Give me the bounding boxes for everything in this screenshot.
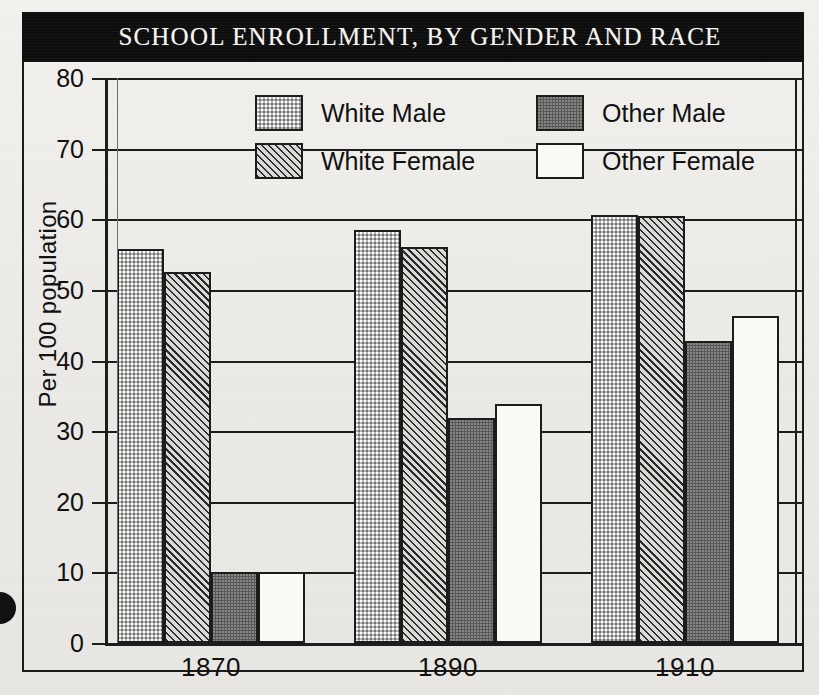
legend-label: White Female: [321, 147, 475, 176]
bar: [117, 249, 164, 643]
legend-label: Other Female: [602, 147, 755, 176]
y-axis-tick-label: 10: [10, 558, 84, 587]
legend-swatch-icon: [536, 95, 584, 131]
legend-label: White Male: [321, 99, 446, 128]
legend-item: White Female: [255, 143, 475, 179]
y-axis-tick: [92, 78, 105, 80]
y-axis-tick: [92, 643, 105, 645]
y-axis-tick-label: 70: [10, 134, 84, 163]
x-axis-spine: [105, 643, 803, 646]
bar: [638, 216, 685, 643]
right-axis-spine: [795, 78, 797, 645]
gridline: [105, 78, 803, 80]
legend-label: Other Male: [602, 99, 726, 128]
bar: [354, 230, 401, 643]
bar: [591, 215, 638, 643]
y-axis-tick: [92, 572, 105, 574]
y-axis-tick: [92, 502, 105, 504]
bar: [258, 572, 305, 643]
legend-swatch-icon: [536, 143, 584, 179]
x-axis-tick-label: 1890: [388, 652, 508, 683]
legend-item: Other Male: [536, 95, 726, 131]
bar: [495, 404, 542, 643]
legend-swatch-icon: [255, 143, 303, 179]
y-axis-tick: [92, 149, 105, 151]
y-axis-tick-label: 20: [10, 487, 84, 516]
bar: [164, 272, 211, 643]
y-axis-tick-label: 80: [10, 64, 84, 93]
y-axis-tick: [92, 431, 105, 433]
y-axis-tick-label: 0: [10, 629, 84, 658]
legend-item: White Male: [255, 95, 446, 131]
bar: [732, 316, 779, 643]
x-axis-tick-label: 1910: [625, 652, 745, 683]
bar: [448, 418, 495, 643]
y-axis-inner-guide: [117, 78, 118, 643]
y-axis-tick: [92, 219, 105, 221]
legend-item: Other Female: [536, 143, 755, 179]
y-axis-tick: [92, 361, 105, 363]
bar: [211, 572, 258, 643]
y-axis-label: Per 100 population: [34, 164, 62, 444]
bar: [401, 247, 448, 643]
y-axis-tick: [92, 290, 105, 292]
x-axis-tick-label: 1870: [151, 652, 271, 683]
chart-legend: White MaleWhite FemaleOther MaleOther Fe…: [255, 95, 775, 190]
gridline: [105, 219, 803, 221]
y-axis-spine: [105, 78, 108, 645]
legend-swatch-icon: [255, 95, 303, 131]
bar: [685, 341, 732, 643]
